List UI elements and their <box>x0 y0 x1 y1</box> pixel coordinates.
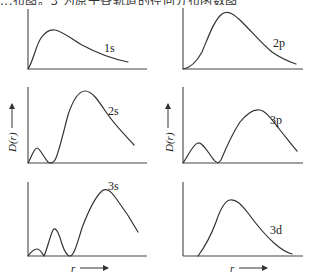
x-axis-label: r <box>71 262 76 274</box>
curve-3s <box>28 190 138 256</box>
panel-3p: 3p D(r) <box>163 87 303 163</box>
curve-2s <box>28 91 134 163</box>
y-axis-label: D(r) <box>6 132 19 153</box>
panel-2p: 2p <box>183 8 303 69</box>
label-2s: 2s <box>108 104 119 118</box>
label-3d: 3d <box>270 223 282 237</box>
y-axis-label: D(r) <box>163 132 176 153</box>
label-1s: 1s <box>104 41 115 55</box>
panel-3s: 3s r <box>28 179 147 274</box>
label-3p: 3p <box>270 113 282 127</box>
label-2p: 2p <box>273 36 285 50</box>
panel-2s: 2s D(r) <box>6 87 147 163</box>
x-axis-label: r <box>230 262 235 274</box>
label-3s: 3s <box>108 179 119 193</box>
radial-distribution-figure: 1s 2p 2s D(r) 3p D(r) 3s r <box>0 0 310 277</box>
panel-1s: 1s <box>28 9 147 69</box>
panel-3d: 3d r <box>183 182 303 274</box>
